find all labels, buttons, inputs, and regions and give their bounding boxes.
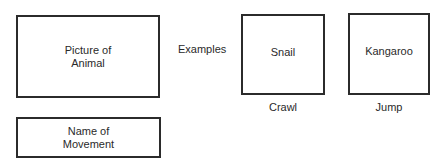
name-of-movement-box: Name of Movement (16, 117, 161, 158)
examples-label: Examples (178, 43, 226, 56)
example-movement-jump: Jump (348, 101, 430, 114)
picture-of-animal-box: Picture of Animal (16, 15, 160, 98)
example-movement-crawl: Crawl (241, 101, 325, 114)
example-box-snail: Snail (241, 14, 325, 95)
example-box-kangaroo: Kangaroo (348, 13, 430, 95)
